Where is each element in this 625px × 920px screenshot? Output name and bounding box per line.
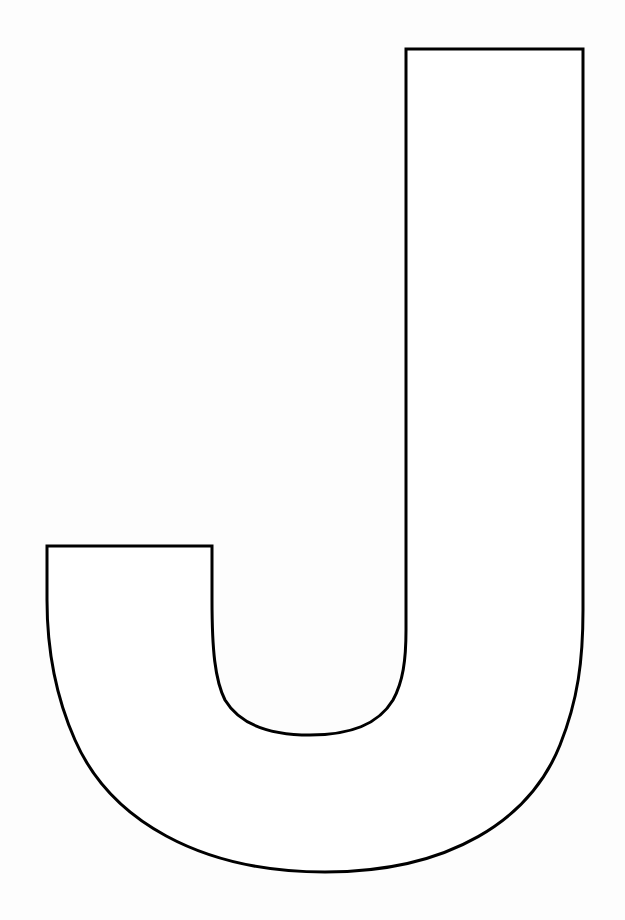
letter-j-path [47, 49, 583, 872]
coloring-page: J [0, 0, 625, 920]
letter-j-outline [0, 0, 625, 920]
